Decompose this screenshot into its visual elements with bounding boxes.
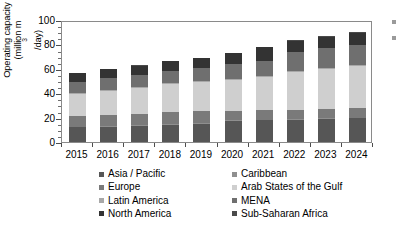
legend-label: Sub-Saharan Africa	[241, 208, 328, 219]
bar-segment	[349, 118, 366, 142]
bar-segment	[318, 109, 335, 119]
bar-segment	[100, 127, 117, 142]
bar-stack	[131, 65, 148, 142]
bar-segment	[162, 112, 179, 124]
x-tick	[154, 143, 155, 147]
legend-swatch-icon	[232, 185, 237, 190]
clipped-legend-mark-1	[392, 20, 396, 24]
bar-segment	[225, 64, 242, 79]
legend-item[interactable]: North America	[99, 207, 171, 220]
y-tick-label: 0	[29, 138, 55, 148]
legend-row: Latin AmericaMENA	[99, 194, 371, 207]
legend-item[interactable]: MENA	[232, 194, 270, 207]
bar-segment	[256, 47, 273, 60]
chart-legend: Asia / PacificCaribbeanEuropeArab States…	[99, 167, 371, 221]
bar-segment	[193, 58, 210, 67]
legend-label: Europe	[108, 181, 140, 192]
bar-stack	[349, 32, 366, 142]
plot-area	[61, 21, 372, 143]
y-tick-label: 20	[29, 114, 55, 124]
legend-label: North America	[108, 208, 171, 219]
legend-row: EuropeArab States of the Gulf	[99, 180, 371, 193]
bar-segment	[225, 121, 242, 142]
x-tick	[92, 143, 93, 147]
x-tick	[61, 143, 62, 147]
bar-segment	[162, 61, 179, 71]
x-tick	[372, 143, 373, 147]
bar-segment	[69, 82, 86, 93]
bar-stack	[69, 73, 86, 142]
bar-segment	[100, 78, 117, 90]
bar-stack	[287, 40, 304, 142]
legend-item[interactable]: Europe	[99, 180, 140, 193]
legend-label: Caribbean	[241, 168, 287, 179]
legend-label: Arab States of the Gulf	[241, 181, 342, 192]
bar-segment	[69, 94, 86, 116]
bar-segment	[131, 66, 148, 75]
bar-segment	[318, 119, 335, 142]
legend-item[interactable]: Latin America	[99, 194, 169, 207]
x-tick-label: 2024	[336, 149, 376, 160]
x-tick	[217, 143, 218, 147]
bar-segment	[131, 88, 148, 114]
bar-segment	[349, 66, 366, 107]
legend-item[interactable]: Sub-Saharan Africa	[232, 207, 328, 220]
bar-segment	[100, 69, 117, 78]
bar-segment	[287, 110, 304, 120]
bars-container	[62, 22, 371, 142]
legend-swatch-icon	[99, 211, 104, 216]
bar-segment	[318, 48, 335, 68]
bar-stack	[225, 53, 242, 142]
bar-segment	[256, 110, 273, 120]
legend-swatch-icon	[99, 185, 104, 190]
legend-swatch-icon	[99, 198, 104, 203]
bar-segment	[162, 84, 179, 113]
bar-segment	[256, 120, 273, 142]
bar-segment	[69, 127, 86, 142]
bar-segment	[256, 77, 273, 110]
bar-segment	[162, 125, 179, 142]
clipped-legend-mark-2	[392, 36, 396, 40]
bar-segment	[193, 68, 210, 82]
y-axis-title-line1: Operating capacity	[2, 2, 12, 78]
y-tick-label: 40	[29, 89, 55, 99]
bar-segment	[225, 111, 242, 120]
legend-label: Latin America	[108, 195, 169, 206]
bar-segment	[287, 52, 304, 70]
legend-row: Asia / PacificCaribbean	[99, 167, 371, 180]
y-tick-label: 100	[29, 16, 55, 26]
bar-segment	[318, 69, 335, 109]
legend-swatch-icon	[232, 198, 237, 203]
bar-segment	[162, 71, 179, 83]
y-tick-label: 80	[29, 40, 55, 50]
bar-segment	[349, 33, 366, 45]
x-tick	[123, 143, 124, 147]
bar-stack	[318, 36, 335, 142]
legend-item[interactable]: Caribbean	[232, 167, 287, 180]
chart-figure: Operating capacity (million m3/day) 0204…	[0, 0, 398, 228]
x-tick	[248, 143, 249, 147]
legend-item[interactable]: Asia / Pacific	[99, 167, 165, 180]
bar-segment	[131, 114, 148, 126]
bar-segment	[225, 80, 242, 111]
bar-segment	[287, 41, 304, 52]
bar-stack	[162, 61, 179, 142]
bar-stack	[100, 69, 117, 142]
bar-segment	[193, 111, 210, 123]
bar-segment	[318, 37, 335, 48]
bar-segment	[349, 108, 366, 118]
bar-segment	[100, 91, 117, 115]
legend-swatch-icon	[99, 172, 104, 177]
x-tick	[185, 143, 186, 147]
y-axis-title-exponent: 3	[21, 38, 28, 42]
legend-label: Asia / Pacific	[108, 168, 165, 179]
legend-row: North AmericaSub-Saharan Africa	[99, 207, 371, 220]
bar-segment	[193, 124, 210, 142]
legend-label: MENA	[241, 195, 270, 206]
bar-segment	[287, 120, 304, 142]
bar-stack	[256, 47, 273, 142]
bar-segment	[256, 61, 273, 77]
x-tick	[279, 143, 280, 147]
legend-item[interactable]: Arab States of the Gulf	[232, 180, 342, 193]
bar-segment	[287, 72, 304, 110]
